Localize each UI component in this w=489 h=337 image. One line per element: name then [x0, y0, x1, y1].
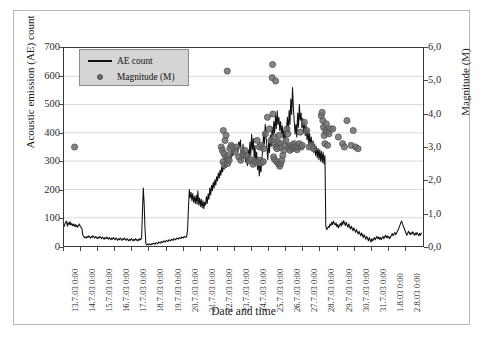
scatter-point [330, 126, 336, 132]
scatter-point [355, 146, 361, 152]
x-axis-tick-mark [131, 247, 132, 251]
x-axis-tick-mark [200, 247, 201, 251]
x-axis-tick-mark [354, 247, 355, 251]
scatter-point [72, 144, 78, 150]
scatter-point [310, 146, 316, 152]
x-axis-tick-mark [371, 247, 372, 251]
legend-line-swatch [88, 60, 112, 62]
x-axis-tick-mark [80, 247, 81, 251]
scatter-point [260, 158, 266, 164]
scatter-point [285, 131, 291, 137]
y-axis-right-tick-mark [424, 114, 428, 115]
x-axis-tick-mark [302, 247, 303, 251]
y-axis-right-tick-label: 6,0 [428, 42, 462, 52]
y-axis-right-tick-mark [424, 47, 428, 48]
y-axis-left-tick-mark [59, 218, 63, 219]
y-axis-left-ticks: 0100200300400500600700 [22, 47, 60, 247]
y-axis-left-tick-label: 500 [26, 99, 60, 109]
y-axis-left-tick-label: 300 [26, 156, 60, 166]
scatter-point [297, 129, 303, 135]
scatter-point [350, 127, 356, 133]
scatter-point [269, 61, 275, 67]
scatter-point [266, 126, 272, 132]
scatter-point [270, 111, 276, 117]
y-axis-left-tick-mark [59, 133, 63, 134]
scatter-point [283, 137, 289, 143]
scatter-point [304, 127, 310, 133]
y-axis-left-tick-label: 600 [26, 71, 60, 81]
legend-dot-swatch [97, 74, 103, 80]
scatter-point [344, 118, 350, 124]
legend-label-ae-count: AE count [117, 55, 153, 67]
x-axis-tick-mark [114, 247, 115, 251]
y-axis-left-tick-mark [59, 161, 63, 162]
y-axis-right-tick-mark [424, 247, 428, 248]
x-axis-tick-mark [268, 247, 269, 251]
scatter-point [273, 78, 279, 84]
y-axis-right-tick-label: 3,0 [428, 142, 462, 152]
chart-legend: AE count Magnitude (M) [79, 49, 189, 86]
y-axis-right-tick-label: 1,0 [428, 209, 462, 219]
y-axis-right-tick-mark [424, 80, 428, 81]
y-axis-right-tick-mark [424, 180, 428, 181]
scatter-point [335, 134, 341, 140]
scatter-point [224, 68, 230, 74]
x-axis-tick-mark [319, 247, 320, 251]
scatter-point [238, 157, 244, 163]
scatter-point [325, 142, 331, 148]
x-axis-tick-mark [148, 247, 149, 251]
y-axis-left-tick-label: 200 [26, 185, 60, 195]
x-axis-tick-mark [166, 247, 167, 251]
legend-entry-ae-count: AE count [80, 54, 190, 68]
x-axis-title: Date and time [63, 305, 424, 317]
scatter-point [264, 114, 270, 120]
y-axis-right-tick-label: 0,0 [428, 242, 462, 252]
chart-figure: Acoustic emission (AE) count Magnitude (… [0, 0, 489, 337]
y-axis-left-tick-label: 100 [26, 213, 60, 223]
x-axis-tick-mark [63, 247, 64, 251]
x-axis-tick-mark [285, 247, 286, 251]
x-axis-tick-mark [405, 247, 406, 251]
scatter-point [223, 132, 229, 138]
scatter-point [242, 147, 248, 153]
scatter-point [301, 119, 307, 125]
y-axis-right-tick-label: 2,0 [428, 175, 462, 185]
legend-label-magnitude: Magnitude (M) [117, 71, 175, 83]
scatter-point [341, 144, 347, 150]
scatter-point [260, 146, 266, 152]
y-axis-left-tick-mark [59, 104, 63, 105]
y-axis-right-tick-label: 5,0 [428, 75, 462, 85]
x-axis-tick-mark [251, 247, 252, 251]
x-axis-tick-mark [388, 247, 389, 251]
ae-count-line [64, 88, 421, 245]
y-axis-left-tick-mark [59, 47, 63, 48]
y-axis-right-ticks: 0,01,02,03,04,05,06,0 [428, 47, 466, 247]
y-axis-left-tick-mark [59, 190, 63, 191]
x-axis-tick-mark [183, 247, 184, 251]
scatter-point [299, 142, 305, 148]
y-axis-right-tick-mark [424, 214, 428, 215]
y-axis-right-tick-label: 4,0 [428, 109, 462, 119]
legend-entry-magnitude: Magnitude (M) [80, 70, 190, 84]
y-axis-left-tick-mark [59, 76, 63, 77]
x-axis-tick-mark [337, 247, 338, 251]
y-axis-left-tick-label: 400 [26, 128, 60, 138]
scatter-point [319, 109, 325, 115]
x-axis-tick-mark [217, 247, 218, 251]
scatter-point [276, 132, 282, 138]
y-axis-right-tick-mark [424, 147, 428, 148]
y-axis-left-tick-label: 700 [26, 42, 60, 52]
y-axis-left-tick-label: 0 [26, 242, 60, 252]
x-axis-tick-mark [97, 247, 98, 251]
scatter-point [226, 157, 232, 163]
x-axis-tick-mark [234, 247, 235, 251]
